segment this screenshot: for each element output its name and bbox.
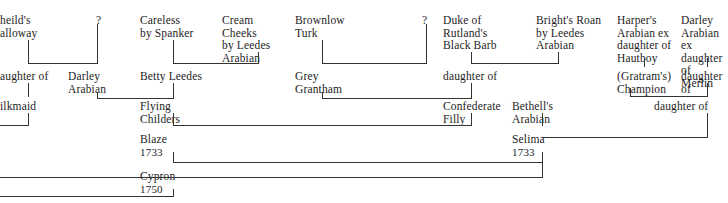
node-daughter-of-left: aughter of [0,70,48,83]
connector-v-darley-merlin [707,58,708,67]
connector-v-unknown-1 [97,24,98,63]
connector-h-cypron-bottom [0,196,174,197]
connector-v-betty-leedes [173,83,174,99]
node-daughter-of-mid: daughter of [443,70,497,83]
node-grey-grantham: Grey Grantham [295,70,342,95]
connector-v-selima [542,152,543,178]
node-duke-of-rutlands-black-barb: Duke of Rutland's Black Barb [443,14,497,52]
node-flying-childers: Flying Childers [140,100,180,125]
node-cypron-year: 1750 [140,183,163,196]
connector-h-far-right-to-selima [542,137,708,138]
connector-h-champion-pair [630,96,708,97]
node-careless-by-spanker: Careless by Spanker [140,14,194,39]
connector-h-flying-childers-to-filly [173,125,471,126]
node-cream-cheeks: Cream Cheeks by Leedes Arabian [222,14,270,64]
node-betty-leedes: Betty Leedes [140,70,202,83]
connector-v-careless [173,40,174,63]
connector-h-careless-pair [173,63,259,64]
node-bethells-arabian: Bethell's Arabian [512,100,553,125]
connector-v-unknown-2 [426,24,427,63]
node-daughter-of-right: daughter of [681,70,728,95]
connector-v-daughter-of-far-right [707,113,708,138]
node-harpers-arabian: Harper's Arabian ex daughter of Hautboy [617,14,671,64]
connector-v-harpers-arabian [644,58,645,67]
connector-v-cream-cheeks-2 [258,52,259,63]
node-selima: Selima [512,133,545,146]
node-gratrams-champion: (Gratram's) Champion [617,70,671,95]
connector-v-brownlow-turk [322,40,323,63]
node-blaze: Blaze [140,133,167,146]
node-sheilds-galloway: heild's alloway [0,14,37,39]
node-selima-year: 1733 [512,146,535,159]
node-milkmaid: ilkmaid [0,100,36,113]
connector-v-black-barb [471,52,472,63]
node-brights-roan: Bright's Roan by Leedes Arabian [536,14,601,52]
node-darley-arabian: Darley Arabian [68,70,106,95]
connector-h-brownlow-pair [322,63,427,64]
pedigree-chart: heild's alloway ? Careless by Spanker Cr… [0,0,728,203]
connector-h-galloway-pair [28,63,98,64]
connector-v-daughter-of-left [28,83,29,97]
connector-v-brights-roan [558,52,559,63]
connector-h-grantham-to-filly [322,98,472,99]
node-blaze-year: 1733 [140,146,163,159]
connector-v-daughter-of-right [707,83,708,97]
connector-v-sheilds-galloway [28,40,29,63]
node-daughter-of-far-right: daughter of [654,100,708,113]
connector-v-confederate-filly [471,113,472,126]
connector-h-blaze-to-selima [173,162,542,163]
connector-h-black-barb-pair [471,63,559,64]
connector-h-darley-to-flying-childers [97,98,173,99]
connector-v-daughter-of-mid [471,83,472,99]
connector-v-bethells-arabian [542,113,543,126]
node-brownlow-turk: Brownlow Turk [295,14,345,39]
connector-h-milkmaid-left [0,125,29,126]
connector-h-selima-bottom [0,177,543,178]
